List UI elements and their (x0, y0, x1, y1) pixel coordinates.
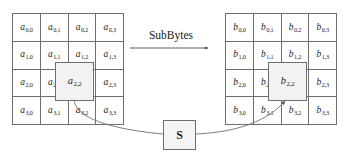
cell-label: b2,0 (233, 78, 245, 88)
cell-label: a1,3 (104, 50, 116, 60)
matrix-a-cell: a0,0 (13, 14, 41, 42)
matrix-b-cell: b3,3 (309, 97, 337, 125)
cell-label: a2,0 (20, 78, 32, 88)
matrix-b-cell: b2,0 (226, 70, 254, 98)
cell-label: a0,0 (20, 23, 32, 33)
cell-label: b0,3 (317, 23, 329, 33)
matrix-a-cell: a2,3 (96, 70, 124, 98)
matrix-a-cell: a3,0 (13, 97, 41, 125)
sbox-node: S (163, 120, 196, 150)
cell-label: b1,1 (261, 50, 273, 60)
cell-label: a0,3 (104, 23, 116, 33)
cell-label: a0,2 (76, 23, 88, 33)
cell-label: a2,2 (68, 76, 81, 87)
matrix-b-cell: b0,1 (254, 14, 282, 42)
matrix-b-cell: b3,0 (226, 97, 254, 125)
matrix-a-cell: a0,2 (69, 14, 97, 42)
cell-label: a3,0 (20, 106, 32, 116)
cell-label: a1,1 (48, 50, 60, 60)
matrix-b-cell: b1,0 (226, 42, 254, 70)
matrix-b-cell: b3,2 (282, 97, 310, 125)
cell-label: a3,2 (76, 106, 88, 116)
cell-label: b3,1 (261, 106, 273, 116)
cell-label: b1,0 (233, 50, 245, 60)
matrix-b-cell: b3,1 (254, 97, 282, 125)
cell-label: b3,2 (289, 106, 301, 116)
matrix-a-cell: a1,3 (96, 42, 124, 70)
cell-label: b1,3 (317, 50, 329, 60)
matrix-b-cell: b2,3 (309, 70, 337, 98)
matrix-a-cell: a1,0 (13, 42, 41, 70)
cell-label: a0,1 (48, 23, 60, 33)
matrix-a-cell: a0,3 (96, 14, 124, 42)
matrix-a-cell: a3,1 (41, 97, 69, 125)
subbytes-label: SubBytes (130, 29, 212, 41)
highlighted-cell-b22: b2,2 (268, 62, 307, 101)
matrix-b-cell: b0,0 (226, 14, 254, 42)
matrix-a-cell: a3,2 (69, 97, 97, 125)
cell-label: a1,2 (76, 50, 88, 60)
cell-label: b2,3 (317, 78, 329, 88)
cell-label: b2,2 (281, 76, 294, 87)
highlighted-cell-a22: a2,2 (55, 62, 94, 101)
cell-label: a3,3 (104, 106, 116, 116)
matrix-b-cell: b0,2 (282, 14, 310, 42)
matrix-a-cell: a3,3 (96, 97, 124, 125)
cell-label: b0,0 (233, 23, 245, 33)
matrix-a-cell: a0,1 (41, 14, 69, 42)
cell-label: a3,1 (48, 106, 60, 116)
matrix-b-cell: b0,3 (309, 14, 337, 42)
matrix-a-cell: a2,0 (13, 70, 41, 98)
cell-label: b3,3 (317, 106, 329, 116)
cell-label: b3,0 (233, 106, 245, 116)
sbox-label: S (176, 128, 183, 143)
cell-label: b1,2 (289, 50, 301, 60)
cell-label: a2,3 (104, 78, 116, 88)
cell-label: a1,0 (20, 50, 32, 60)
matrix-b-cell: b1,3 (309, 42, 337, 70)
cell-label: b0,2 (289, 23, 301, 33)
subbytes-diagram: a0,0 a0,1 a0,2 a0,3 a1,0 a1,1 a1,2 a1,3 … (0, 0, 346, 153)
cell-label: b0,1 (261, 23, 273, 33)
